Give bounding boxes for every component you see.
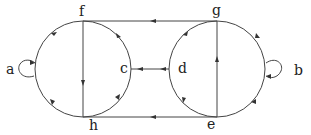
node-label-f: f bbox=[79, 4, 84, 18]
diagram-graphics bbox=[0, 0, 311, 135]
node-label-d: d bbox=[178, 61, 187, 75]
phase-diagram: f g a c d b h e bbox=[0, 0, 311, 135]
node-label-e: e bbox=[207, 117, 215, 131]
self-loop-b bbox=[266, 60, 282, 77]
node-label-h: h bbox=[89, 118, 98, 132]
node-label-g: g bbox=[212, 3, 221, 17]
node-label-b: b bbox=[294, 63, 303, 77]
node-label-a: a bbox=[6, 62, 14, 76]
node-label-c: c bbox=[120, 61, 128, 75]
